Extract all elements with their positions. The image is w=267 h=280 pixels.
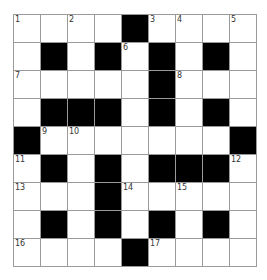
- answer-cell[interactable]: [14, 43, 41, 71]
- clue-number: 11: [15, 156, 25, 164]
- answer-cell[interactable]: [203, 183, 230, 211]
- answer-cell[interactable]: [68, 239, 95, 267]
- answer-cell[interactable]: [149, 127, 176, 155]
- answer-cell[interactable]: [122, 155, 149, 183]
- answer-cell[interactable]: 14: [122, 183, 149, 211]
- answer-cell[interactable]: [176, 127, 203, 155]
- block-cell: [68, 99, 95, 127]
- answer-cell[interactable]: [122, 127, 149, 155]
- clue-number: 13: [15, 184, 25, 192]
- answer-cell[interactable]: [230, 183, 257, 211]
- clue-number: 14: [123, 184, 133, 192]
- answer-cell[interactable]: [95, 127, 122, 155]
- answer-cell[interactable]: 1: [14, 15, 41, 43]
- block-cell: [41, 211, 68, 239]
- clue-number: 6: [123, 44, 128, 52]
- answer-cell[interactable]: [230, 43, 257, 71]
- clue-number: 3: [150, 16, 155, 24]
- clue-number: 7: [15, 72, 20, 80]
- answer-cell[interactable]: [176, 211, 203, 239]
- block-cell: [203, 43, 230, 71]
- answer-cell[interactable]: [176, 99, 203, 127]
- crossword-grid: 1234567891011121314151617: [13, 14, 257, 267]
- clue-number: 10: [69, 128, 79, 136]
- block-cell: [149, 99, 176, 127]
- answer-cell[interactable]: [95, 71, 122, 99]
- answer-cell[interactable]: 5: [230, 15, 257, 43]
- answer-cell[interactable]: 15: [176, 183, 203, 211]
- answer-cell[interactable]: 16: [14, 239, 41, 267]
- block-cell: [95, 155, 122, 183]
- answer-cell[interactable]: [122, 71, 149, 99]
- block-cell: [230, 127, 257, 155]
- answer-cell[interactable]: [230, 71, 257, 99]
- clue-number: 15: [177, 184, 187, 192]
- answer-cell[interactable]: [68, 155, 95, 183]
- block-cell: [149, 155, 176, 183]
- clue-number: 9: [42, 128, 47, 136]
- block-cell: [203, 155, 230, 183]
- answer-cell[interactable]: 7: [14, 71, 41, 99]
- block-cell: [203, 99, 230, 127]
- answer-cell[interactable]: [149, 183, 176, 211]
- clue-number: 12: [231, 156, 241, 164]
- answer-cell[interactable]: [41, 71, 68, 99]
- block-cell: [95, 211, 122, 239]
- block-cell: [122, 239, 149, 267]
- answer-cell[interactable]: 8: [176, 71, 203, 99]
- answer-cell[interactable]: [68, 211, 95, 239]
- answer-cell[interactable]: [95, 15, 122, 43]
- clue-number: 16: [15, 240, 25, 248]
- answer-cell[interactable]: [203, 15, 230, 43]
- answer-cell[interactable]: [122, 211, 149, 239]
- answer-cell[interactable]: [176, 239, 203, 267]
- answer-cell[interactable]: [14, 211, 41, 239]
- answer-cell[interactable]: 4: [176, 15, 203, 43]
- block-cell: [149, 71, 176, 99]
- answer-cell[interactable]: [230, 211, 257, 239]
- answer-cell[interactable]: 13: [14, 183, 41, 211]
- answer-cell[interactable]: [230, 239, 257, 267]
- answer-cell[interactable]: [68, 71, 95, 99]
- answer-cell[interactable]: 3: [149, 15, 176, 43]
- answer-cell[interactable]: 9: [41, 127, 68, 155]
- clue-number: 5: [231, 16, 236, 24]
- block-cell: [176, 155, 203, 183]
- block-cell: [41, 155, 68, 183]
- answer-cell[interactable]: [230, 99, 257, 127]
- block-cell: [95, 43, 122, 71]
- answer-cell[interactable]: [176, 43, 203, 71]
- answer-cell[interactable]: [14, 99, 41, 127]
- answer-cell[interactable]: [203, 127, 230, 155]
- block-cell: [95, 99, 122, 127]
- answer-cell[interactable]: [41, 15, 68, 43]
- answer-cell[interactable]: 6: [122, 43, 149, 71]
- answer-cell[interactable]: 12: [230, 155, 257, 183]
- block-cell: [122, 15, 149, 43]
- clue-number: 2: [69, 16, 74, 24]
- block-cell: [14, 127, 41, 155]
- answer-cell[interactable]: [95, 239, 122, 267]
- block-cell: [149, 43, 176, 71]
- block-cell: [95, 183, 122, 211]
- answer-cell[interactable]: [68, 183, 95, 211]
- answer-cell[interactable]: [122, 99, 149, 127]
- answer-cell[interactable]: 2: [68, 15, 95, 43]
- answer-cell[interactable]: 11: [14, 155, 41, 183]
- answer-cell[interactable]: 10: [68, 127, 95, 155]
- answer-cell[interactable]: [68, 43, 95, 71]
- answer-cell[interactable]: [41, 239, 68, 267]
- block-cell: [149, 211, 176, 239]
- block-cell: [41, 99, 68, 127]
- block-cell: [41, 43, 68, 71]
- answer-cell[interactable]: 17: [149, 239, 176, 267]
- clue-number: 1: [15, 16, 20, 24]
- answer-cell[interactable]: [203, 71, 230, 99]
- answer-cell[interactable]: [203, 239, 230, 267]
- clue-number: 17: [150, 240, 160, 248]
- answer-cell[interactable]: [41, 183, 68, 211]
- clue-number: 4: [177, 16, 182, 24]
- clue-number: 8: [177, 72, 182, 80]
- block-cell: [203, 211, 230, 239]
